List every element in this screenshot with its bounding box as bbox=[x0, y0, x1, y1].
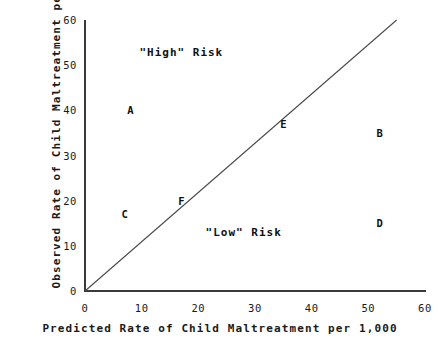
data-point-label: C bbox=[121, 209, 127, 220]
data-point-label: E bbox=[280, 119, 286, 130]
data-point-label: A bbox=[127, 105, 133, 116]
x-tick-label: 60 bbox=[413, 302, 437, 314]
x-axis-title: Predicted Rate of Child Maltreatment per… bbox=[0, 322, 440, 335]
low-risk-annotation: "Low" Risk bbox=[206, 226, 282, 239]
data-point-label: F bbox=[178, 195, 184, 206]
x-tick-label: 10 bbox=[130, 302, 154, 314]
x-tick-label: 40 bbox=[300, 302, 324, 314]
data-point-label: B bbox=[376, 128, 382, 139]
high-risk-annotation: "High" Risk bbox=[139, 45, 223, 58]
x-tick-label: 20 bbox=[186, 302, 210, 314]
y-axis-title: Observed Rate of Child Maltreatment per … bbox=[50, 9, 63, 289]
x-tick-label: 50 bbox=[356, 302, 380, 314]
x-tick-label: 30 bbox=[243, 302, 267, 314]
x-tick-label: 0 bbox=[73, 302, 97, 314]
chart-figure: 0 10 20 30 40 50 60 0 10 20 30 40 50 60 … bbox=[0, 0, 440, 347]
x-axis-line bbox=[85, 290, 426, 292]
data-point-label: D bbox=[376, 218, 382, 229]
y-axis-line bbox=[84, 20, 86, 292]
